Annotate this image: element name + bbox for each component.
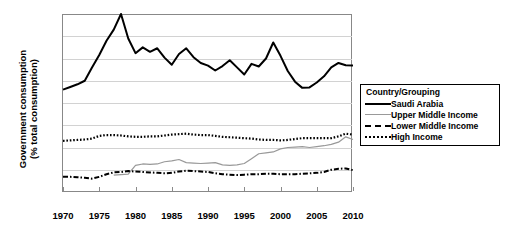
x-tick-label: 2010 [333,210,373,221]
legend-rows: Saudi ArabiaUpper Middle IncomeLower Mid… [365,98,496,142]
plot-area: 101520253035404550 197019751980198519901… [62,14,352,192]
chart-figure: Government consumption (% total consumpt… [0,0,505,231]
legend-item-label: Saudi Arabia [391,99,443,109]
series-line [63,134,353,141]
legend-item[interactable]: High Income [365,131,496,142]
legend-swatch-icon [365,98,391,109]
series-line [63,14,353,90]
legend-item-label: Lower Middle Income [391,121,478,131]
legend-swatch-icon [365,109,391,120]
series-lines [63,14,353,192]
series-line [63,168,353,178]
x-tick-label: 1975 [79,210,119,221]
x-tick-label: 2000 [261,210,301,221]
legend-item-label: Upper Middle Income [391,110,478,120]
x-tick-label: 2005 [297,210,337,221]
legend-item[interactable]: Saudi Arabia [365,98,496,109]
x-tick-label: 1990 [188,210,228,221]
legend-swatch-icon [365,131,391,142]
x-tick-mark [353,187,354,191]
legend-item[interactable]: Upper Middle Income [365,109,496,120]
legend-title: Country/Grouping [366,87,496,97]
chart-legend: Country/Grouping Saudi ArabiaUpper Middl… [360,84,500,146]
x-tick-label: 1995 [224,210,264,221]
x-tick-label: 1970 [43,210,83,221]
legend-item[interactable]: Lower Middle Income [365,120,496,131]
series-line [114,137,353,175]
x-tick-label: 1980 [116,210,156,221]
legend-item-label: High Income [391,132,443,142]
legend-swatch-icon [365,120,391,131]
x-tick-label: 1985 [152,210,192,221]
y-axis-title: Government consumption (% total consumpt… [17,9,39,209]
